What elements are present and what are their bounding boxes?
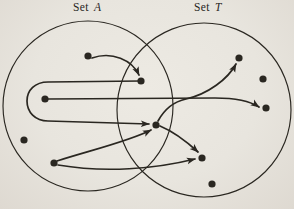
mapping-arrow-o2-to-t4 [160,126,198,152]
set-a-word: Set [73,1,89,13]
element-dot-a3 [20,136,27,143]
element-dot-a4 [50,159,57,166]
element-dot-t4 [198,154,205,161]
set-a-label: SetA [73,1,101,14]
mapping-arrow-a4-to-o2 [57,130,151,161]
set-t-label: SetT [194,1,222,14]
mapping-arrow-a1-to-o1 [92,56,139,75]
element-dot-o2 [152,121,159,128]
mapping-arrow-a4-to-t4 [58,159,195,169]
element-dot-t5 [208,180,215,187]
element-dot-o1 [137,77,144,84]
mapping-arrow-o2-to-t1 [158,64,236,121]
venn-mapping-figure: SetA SetT [0,0,294,209]
element-dot-t1 [235,54,242,61]
set-a-circle [3,21,173,191]
element-dot-a2 [41,95,48,102]
mapping-arrow-a2-to-t3 [48,98,259,107]
set-t-letter: T [215,1,222,13]
set-t-word: Set [194,1,210,13]
mapping-arrows-layer [27,56,259,170]
element-dot-t2 [259,75,266,82]
set-a-letter: A [94,1,101,13]
venn-mapping-diagram [0,0,294,209]
element-dot-t3 [262,104,269,111]
element-dot-a1 [84,52,91,59]
set-circles-layer [3,21,291,197]
